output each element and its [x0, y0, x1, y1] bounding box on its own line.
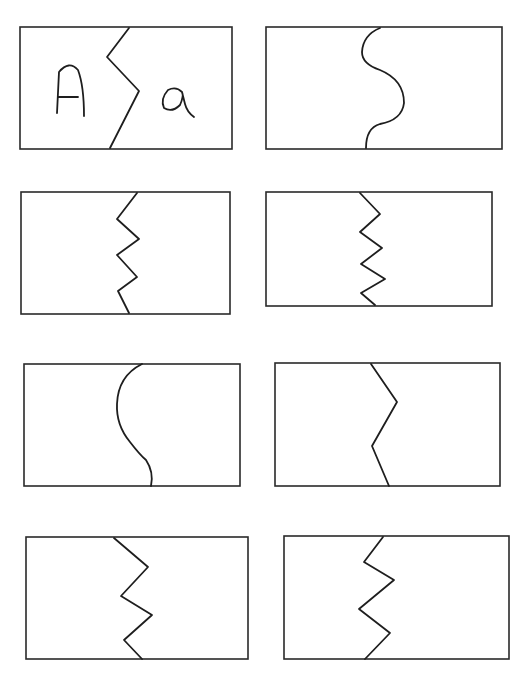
card-border: [26, 537, 248, 659]
cut-line: [362, 28, 404, 148]
uppercase-letter-drawing: [57, 65, 84, 116]
cut-line: [360, 193, 385, 305]
puzzle-card-5: [24, 364, 240, 486]
card-border: [266, 192, 492, 306]
puzzle-card-8: [284, 536, 509, 659]
cut-line: [107, 28, 139, 148]
puzzle-card-3: [21, 192, 230, 314]
cut-line: [117, 364, 152, 486]
puzzle-card-4: [266, 192, 492, 306]
cut-line: [359, 537, 394, 659]
lowercase-letter-drawing: [163, 88, 194, 117]
cut-line: [117, 193, 139, 313]
puzzle-card-7: [26, 537, 248, 659]
card-border: [20, 27, 232, 149]
card-border: [24, 364, 240, 486]
card-border: [284, 536, 509, 659]
card-border: [266, 27, 502, 149]
cut-line: [371, 364, 397, 486]
puzzle-card-1: A a: [0, 0, 232, 149]
card-border: [275, 363, 500, 486]
cut-line: [114, 538, 152, 659]
worksheet-page: A a: [0, 0, 528, 684]
puzzle-card-6: [275, 363, 500, 486]
card-border: [21, 192, 230, 314]
puzzle-card-2: [266, 27, 502, 149]
